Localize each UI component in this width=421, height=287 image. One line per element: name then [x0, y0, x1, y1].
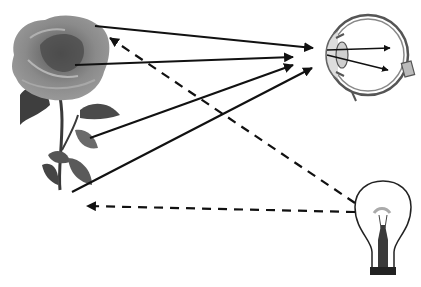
eye-icon	[326, 15, 415, 101]
light-bulb-icon	[355, 181, 411, 275]
light-reflection-diagram	[0, 0, 421, 287]
rose-icon	[12, 15, 120, 190]
